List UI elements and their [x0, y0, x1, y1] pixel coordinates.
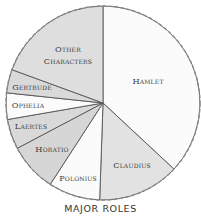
- chart-title: MAJOR ROLES: [0, 203, 201, 214]
- slice-label-polonius: Polonius: [59, 173, 97, 183]
- slice-label-claudius: Claudius: [113, 160, 151, 170]
- slice-label-horatio: Horatio: [35, 144, 68, 154]
- slice-label-laertes: Laertes: [15, 121, 47, 131]
- pie-chart: HamletClaudiusPoloniusHoratioLaertesOphe…: [0, 0, 201, 218]
- slice-label-gertrude: Gertrude: [12, 82, 52, 92]
- slice-label-ophelia: Ophelia: [12, 100, 45, 110]
- slice-label-hamlet: Hamlet: [132, 76, 163, 86]
